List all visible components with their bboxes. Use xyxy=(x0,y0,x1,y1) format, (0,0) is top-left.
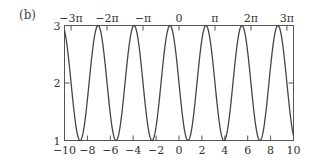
x-tick-label: −2 xyxy=(148,144,164,157)
x-top-tick-label: π xyxy=(211,12,218,25)
x-tick-label: 0 xyxy=(176,144,183,157)
x-tick-label: 8 xyxy=(267,144,274,157)
y-tick-label: 1 xyxy=(54,135,61,148)
x-tick-label: −4 xyxy=(125,144,141,157)
x-tick-label: 2 xyxy=(198,144,205,157)
x-top-tick-label: 3π xyxy=(280,12,294,25)
x-axis-bottom: −10−8−6−4−20246810 xyxy=(53,136,301,157)
x-top-tick-label: −π xyxy=(135,12,151,25)
x-tick-label: 6 xyxy=(244,144,251,157)
x-top-tick-label: 2π xyxy=(244,12,258,25)
x-tick-label: 4 xyxy=(221,144,228,157)
curve-line xyxy=(65,26,294,141)
x-top-tick-label: −3π xyxy=(59,12,82,25)
y-tick-label: 2 xyxy=(54,77,61,90)
chart: −10−8−6−4−20246810 −3π−2π−π0π2π3π 123 xyxy=(0,0,309,164)
x-axis-top-pi: −3π−2π−π0π2π3π xyxy=(59,12,294,31)
x-top-tick-label: −2π xyxy=(95,12,118,25)
x-tick-label: −6 xyxy=(102,144,118,157)
x-tick-label: 10 xyxy=(287,144,301,157)
x-tick-label: −8 xyxy=(79,144,95,157)
sine-curve xyxy=(65,26,294,141)
y-tick-label: 3 xyxy=(54,20,61,33)
x-top-tick-label: 0 xyxy=(176,12,183,25)
